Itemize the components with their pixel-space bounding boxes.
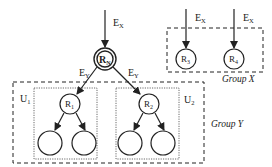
unit-u2-label: U2	[184, 94, 194, 106]
node-r4: R4	[224, 49, 244, 69]
node-r2: R2	[139, 94, 159, 114]
root-node-rn: RN	[94, 48, 116, 70]
edge-r1-to-child-2	[76, 113, 85, 130]
edge-label-ey-r1: EY	[79, 67, 90, 79]
node-u1-child-1	[38, 131, 62, 155]
edge-r1-to-child-1	[55, 113, 64, 130]
group-y-label: Group Y	[211, 119, 245, 129]
node-r1: R1	[60, 94, 80, 114]
unit-u1-label: U1	[20, 93, 30, 105]
node-u2-child-1	[118, 131, 142, 155]
edge-r2-to-child-2	[155, 113, 164, 130]
edge-label-ex-r3: EX	[195, 12, 206, 24]
edge-label-ex-r4: EX	[243, 12, 254, 24]
group-x-label: Group X	[222, 74, 256, 84]
edge-r2-to-child-1	[134, 113, 143, 130]
diagram-canvas: EX RN Group X EX R3 EX R4 Group Y EY EY …	[0, 0, 272, 167]
edge-label-ey-r2: EY	[128, 67, 139, 79]
edge-label-ex-root: EX	[113, 17, 124, 29]
node-r3: R3	[176, 49, 196, 69]
node-u1-child-2	[72, 131, 96, 155]
node-u2-child-2	[151, 131, 175, 155]
